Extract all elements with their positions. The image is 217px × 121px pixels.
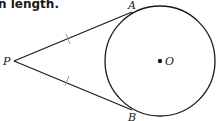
label-o: O bbox=[165, 55, 174, 68]
tangent-segment-pb bbox=[14, 61, 132, 110]
label-b: B bbox=[127, 111, 136, 121]
tangent-diagram: P A B O bbox=[0, 0, 217, 121]
label-a: A bbox=[127, 0, 136, 12]
tick-mark-pb bbox=[65, 76, 69, 86]
label-p: P bbox=[2, 55, 11, 68]
tangent-segment-pa bbox=[14, 12, 132, 61]
center-point-o bbox=[158, 59, 162, 63]
